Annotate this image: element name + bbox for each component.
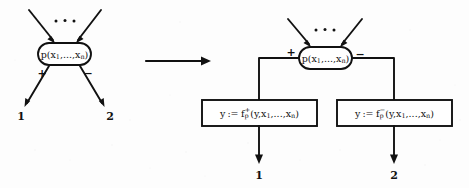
assignment-box-plus[interactable]: y:=fp+(y,x1,...,xn) xyxy=(202,100,317,126)
right-sign-plus: + xyxy=(286,46,295,59)
right-connector-minus xyxy=(352,58,394,100)
left-input-ellipsis xyxy=(55,19,76,23)
assignment-box-minus[interactable]: y:=fp−(y,x1,...,xn) xyxy=(337,100,452,126)
assignment-box-minus-label: y:=fp−(y,x1,...,xn) xyxy=(354,105,434,119)
left-terminal-1: 1 xyxy=(17,110,25,123)
right-connector-plus xyxy=(259,58,299,100)
left-sign-plus: + xyxy=(37,67,46,80)
left-diagram: p(x1,...,xn) + − 1 2 xyxy=(17,10,114,123)
assignment-box-plus-label: y:=fp+(y,x1,...,xn) xyxy=(219,105,299,119)
right-diagram: p(x1,...,xn) + − y:=fp+(y,x1,...,xn) xyxy=(202,19,452,182)
right-input-ellipsis xyxy=(315,28,336,32)
transformation-diagram: p(x1,...,xn) + − 1 2 xyxy=(0,0,469,188)
right-output-arrow-1 xyxy=(255,126,263,164)
left-input-arrow-1 xyxy=(29,10,56,44)
right-terminal-2: 2 xyxy=(390,169,398,182)
right-output-arrow-2 xyxy=(390,126,398,164)
right-input-arrow-2 xyxy=(340,19,363,48)
right-sign-minus: − xyxy=(355,48,364,61)
left-input-arrow-2 xyxy=(76,10,102,44)
left-sign-minus: − xyxy=(83,67,92,80)
left-terminal-2: 2 xyxy=(106,110,114,123)
right-terminal-1: 1 xyxy=(255,169,263,182)
right-input-arrow-1 xyxy=(288,19,312,48)
figure-canvas: p(x1,...,xn) + − 1 2 xyxy=(0,0,469,188)
transform-arrow xyxy=(146,57,211,66)
